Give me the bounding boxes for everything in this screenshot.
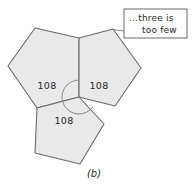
- angle-label-left: 108: [37, 80, 56, 91]
- bottom-pentagon: [35, 97, 104, 164]
- angle-label-right: 108: [89, 80, 108, 91]
- figure-caption: (b): [87, 168, 101, 179]
- upper-right-pentagon: [79, 29, 141, 106]
- angle-label-bottom: 108: [54, 115, 73, 126]
- callout-line-1: ...three is: [129, 13, 174, 23]
- pentagon-tiling-figure: ...three is too few 108 108 108 (b): [0, 0, 193, 185]
- upper-left-pentagon: [8, 28, 79, 108]
- figure-container: ...three is too few 108 108 108 (b): [0, 0, 193, 185]
- callout-line-2: too few: [142, 25, 177, 35]
